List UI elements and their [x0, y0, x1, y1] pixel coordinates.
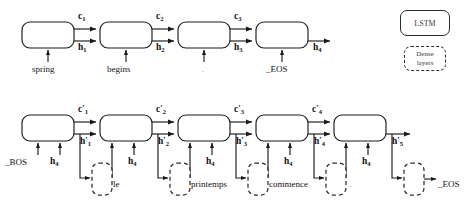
encoder-c-label-3: c3 [234, 12, 241, 22]
decoder-context-label-4: h4 [362, 157, 371, 167]
encoder-input-token-4: _EOS [266, 65, 288, 74]
encoder-input-token-1: spring [32, 65, 55, 74]
dense-box-5 [404, 163, 424, 195]
dense-to-next-cell-paths [112, 143, 346, 178]
decoder-context-label-1: h4 [128, 157, 137, 167]
decoder-h-label-2: h′2 [158, 137, 169, 147]
decoder-c-label-1: c′1 [78, 105, 88, 115]
dense-box-3 [248, 163, 268, 195]
decoder-cell-2 [100, 115, 152, 141]
decoder-output-word-2: printemps [191, 180, 227, 189]
decoder-context-label-0: h4 [50, 157, 59, 167]
dense-box-2 [170, 163, 190, 195]
encoder-cell-2 [100, 22, 152, 48]
decoder-context-label-3: h4 [284, 157, 293, 167]
encoder-h-label-2: h2 [156, 43, 165, 53]
encoder-h-label-3: h3 [234, 43, 243, 53]
decoder-cell-5 [334, 115, 386, 141]
decoder-cell-4 [256, 115, 308, 141]
decoder-output-word-1: le [113, 180, 120, 189]
encoder-cell-1 [22, 22, 74, 48]
encoder-cell-3 [178, 22, 230, 48]
decoder-cell-1 [22, 115, 74, 141]
seq2seq-diagram: c1 c2 c3 h1 h2 h3 h4 spring begins . _EO… [0, 0, 466, 209]
decoder-cell-3 [178, 115, 230, 141]
encoder-cell-4 [256, 22, 308, 48]
legend-dense-label-line1: Dense [405, 50, 445, 59]
encoder-cells [22, 22, 308, 48]
encoder-c-label-1: c1 [78, 12, 85, 22]
decoder-output-word-5: _EOS [438, 180, 460, 189]
diagram-canvas [0, 0, 466, 209]
decoder-h-label-4: h′4 [314, 137, 325, 147]
encoder-input-token-2: begins [107, 65, 131, 74]
decoder-dense-boxes [92, 163, 424, 195]
dense-box-4 [326, 163, 346, 195]
decoder-context-label-2: h4 [206, 157, 215, 167]
legend-dense-label-line2: layers [405, 59, 445, 68]
decoder-h-label-3: h′3 [236, 137, 247, 147]
legend-lstm-box: LSTM [400, 10, 450, 36]
decoder-cells [22, 115, 386, 141]
dense-box-1 [92, 163, 112, 195]
encoder-c-label-2: c2 [156, 12, 163, 22]
decoder-output-word-4: . [350, 180, 352, 189]
legend-dense-box: Dense layers [404, 46, 446, 71]
decoder-bos-token: _BOS [5, 158, 27, 167]
decoder-final-h-label: h′5 [392, 137, 403, 147]
encoder-output-h-label: h4 [313, 43, 322, 53]
decoder-h-label-1: h′1 [80, 137, 91, 147]
legend-lstm-label: LSTM [401, 19, 449, 28]
encoder-h-label-1: h1 [78, 43, 87, 53]
decoder-output-word-3: commence [269, 180, 308, 189]
decoder-c-label-2: c′2 [156, 105, 166, 115]
decoder-c-label-3: c′3 [234, 105, 244, 115]
decoder-c-label-4: c′4 [312, 105, 322, 115]
encoder-input-token-3: . [202, 65, 204, 74]
